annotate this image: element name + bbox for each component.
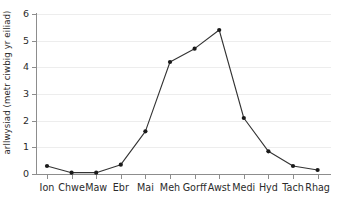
series-markers: [45, 28, 320, 175]
data-point: [316, 168, 320, 172]
series-line: [47, 30, 318, 173]
data-point: [45, 164, 49, 168]
data-point: [168, 60, 172, 64]
data-point: [217, 28, 221, 32]
data-point: [242, 116, 246, 120]
data-point: [119, 163, 123, 167]
series-layer: [0, 0, 337, 207]
data-point: [291, 164, 295, 168]
data-point: [266, 149, 270, 153]
line-chart: arllwysiad (metr ciwbig yr eiliad) 01234…: [0, 0, 337, 207]
data-point: [70, 171, 74, 175]
data-point: [94, 171, 98, 175]
data-point: [143, 129, 147, 133]
data-point: [193, 47, 197, 51]
